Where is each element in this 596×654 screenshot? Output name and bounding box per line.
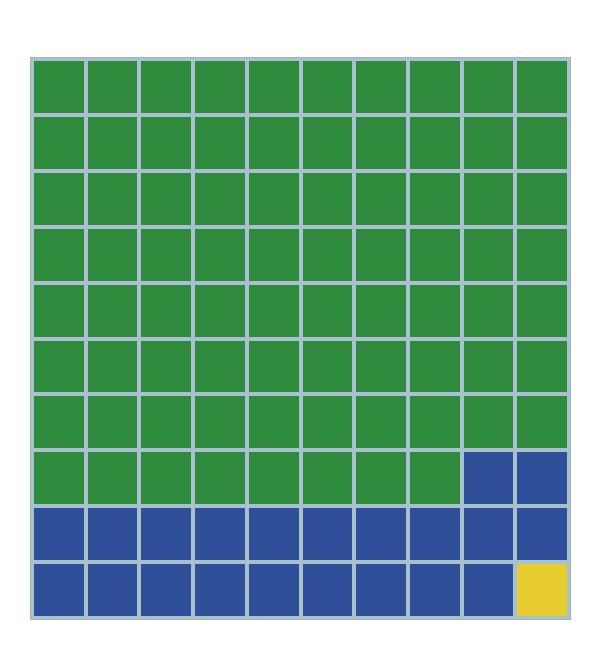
waffle-cell-green <box>34 285 84 337</box>
waffle-cell-green <box>249 229 299 281</box>
waffle-cell-blue <box>464 452 514 504</box>
waffle-cell-green <box>141 117 191 169</box>
waffle-cell-blue <box>464 508 514 560</box>
waffle-cell-green <box>249 341 299 393</box>
waffle-cell-green <box>356 61 406 113</box>
waffle-cell-green <box>410 341 460 393</box>
waffle-chart <box>30 57 571 620</box>
waffle-cell-green <box>141 229 191 281</box>
waffle-cell-green <box>88 452 138 504</box>
waffle-cell-green <box>356 396 406 448</box>
waffle-cell-green <box>303 341 353 393</box>
waffle-cell-green <box>303 229 353 281</box>
waffle-cell-green <box>195 61 245 113</box>
waffle-cell-green <box>464 285 514 337</box>
waffle-cell-green <box>410 452 460 504</box>
waffle-cell-green <box>34 117 84 169</box>
waffle-cell-green <box>517 61 567 113</box>
waffle-cell-blue <box>410 564 460 616</box>
waffle-cell-yellow <box>517 564 567 616</box>
waffle-cell-green <box>34 396 84 448</box>
waffle-cell-blue <box>88 508 138 560</box>
waffle-cell-green <box>356 452 406 504</box>
waffle-cell-green <box>195 452 245 504</box>
waffle-cell-blue <box>517 452 567 504</box>
waffle-cell-green <box>464 396 514 448</box>
waffle-cell-blue <box>464 564 514 616</box>
waffle-cell-green <box>249 173 299 225</box>
waffle-cell-green <box>88 61 138 113</box>
waffle-cell-green <box>410 229 460 281</box>
waffle-cell-green <box>356 285 406 337</box>
waffle-cell-green <box>303 285 353 337</box>
waffle-cell-blue <box>141 508 191 560</box>
waffle-cell-green <box>249 396 299 448</box>
waffle-cell-green <box>517 341 567 393</box>
waffle-cell-green <box>88 173 138 225</box>
waffle-cell-blue <box>195 564 245 616</box>
waffle-cell-green <box>249 61 299 113</box>
waffle-cell-green <box>410 396 460 448</box>
waffle-cell-green <box>249 117 299 169</box>
waffle-cell-green <box>249 285 299 337</box>
waffle-cell-blue <box>356 564 406 616</box>
waffle-cell-green <box>88 117 138 169</box>
waffle-cell-green <box>410 285 460 337</box>
waffle-cell-green <box>410 61 460 113</box>
waffle-cell-blue <box>517 508 567 560</box>
waffle-cell-green <box>303 396 353 448</box>
waffle-cell-green <box>356 173 406 225</box>
waffle-cell-green <box>410 173 460 225</box>
waffle-cell-green <box>34 173 84 225</box>
waffle-cell-green <box>517 229 567 281</box>
waffle-cell-green <box>141 452 191 504</box>
waffle-cell-blue <box>34 508 84 560</box>
waffle-cell-green <box>141 341 191 393</box>
waffle-cell-blue <box>88 564 138 616</box>
waffle-cell-green <box>517 285 567 337</box>
waffle-cell-green <box>356 117 406 169</box>
waffle-cell-green <box>303 452 353 504</box>
waffle-cell-green <box>34 341 84 393</box>
waffle-cell-green <box>195 285 245 337</box>
waffle-cell-green <box>195 173 245 225</box>
waffle-cell-green <box>464 341 514 393</box>
waffle-cell-green <box>356 229 406 281</box>
waffle-cell-green <box>88 396 138 448</box>
waffle-cell-green <box>34 61 84 113</box>
waffle-cell-green <box>195 117 245 169</box>
waffle-cell-green <box>88 229 138 281</box>
waffle-cell-green <box>34 452 84 504</box>
waffle-cell-blue <box>410 508 460 560</box>
waffle-cell-green <box>141 396 191 448</box>
waffle-cell-green <box>195 229 245 281</box>
waffle-cell-blue <box>303 564 353 616</box>
waffle-cell-green <box>249 452 299 504</box>
waffle-cell-blue <box>34 564 84 616</box>
waffle-cell-green <box>195 341 245 393</box>
waffle-cell-blue <box>249 508 299 560</box>
waffle-cell-green <box>356 341 406 393</box>
waffle-cell-green <box>517 396 567 448</box>
waffle-cell-green <box>34 229 84 281</box>
waffle-cell-green <box>141 285 191 337</box>
waffle-cell-green <box>303 173 353 225</box>
waffle-cell-green <box>195 396 245 448</box>
waffle-cell-green <box>464 229 514 281</box>
waffle-cell-green <box>303 117 353 169</box>
waffle-cell-green <box>141 173 191 225</box>
waffle-cell-green <box>88 285 138 337</box>
waffle-cell-blue <box>249 564 299 616</box>
waffle-cell-green <box>464 61 514 113</box>
waffle-cell-green <box>464 117 514 169</box>
waffle-cell-green <box>517 173 567 225</box>
waffle-cell-green <box>141 61 191 113</box>
waffle-cell-green <box>464 173 514 225</box>
waffle-cell-green <box>88 341 138 393</box>
waffle-cell-blue <box>356 508 406 560</box>
waffle-cell-blue <box>195 508 245 560</box>
waffle-cell-green <box>517 117 567 169</box>
waffle-cell-green <box>410 117 460 169</box>
waffle-cell-blue <box>141 564 191 616</box>
waffle-cell-green <box>303 61 353 113</box>
